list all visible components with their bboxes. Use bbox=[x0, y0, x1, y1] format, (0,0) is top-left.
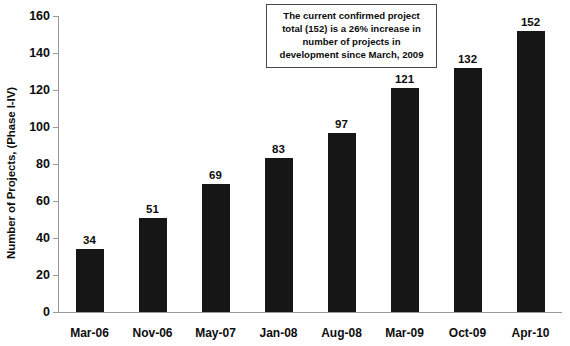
bar-value-label: 97 bbox=[335, 118, 348, 130]
bar: 51Nov-06 bbox=[139, 218, 167, 312]
y-tick-label: 0 bbox=[43, 305, 50, 319]
x-axis-label: Mar-06 bbox=[70, 326, 109, 340]
bar: 121Mar-09 bbox=[391, 88, 419, 312]
bar-value-label: 34 bbox=[83, 234, 96, 246]
y-tick-label: 140 bbox=[29, 46, 50, 60]
bar-value-label: 83 bbox=[272, 143, 285, 155]
x-axis-label: May-07 bbox=[195, 326, 236, 340]
y-tick-mark bbox=[53, 238, 58, 239]
y-tick-label: 40 bbox=[36, 231, 50, 245]
x-axis-label: Mar-09 bbox=[385, 326, 424, 340]
y-axis-title: Number of Projects, (Phase I-IV) bbox=[0, 0, 22, 346]
bar-value-label: 51 bbox=[146, 203, 159, 215]
y-tick-mark bbox=[53, 275, 58, 276]
y-tick-mark bbox=[53, 201, 58, 202]
x-axis-label: Apr-10 bbox=[511, 326, 549, 340]
y-tick-label: 20 bbox=[36, 268, 50, 282]
annotation-line: development since March, 2009 bbox=[280, 49, 424, 62]
y-tick-label: 160 bbox=[29, 9, 50, 23]
x-axis-label: Aug-08 bbox=[321, 326, 362, 340]
bar: 34Mar-06 bbox=[76, 249, 104, 312]
y-tick-label: 100 bbox=[29, 120, 50, 134]
y-tick-label: 60 bbox=[36, 194, 50, 208]
y-tick-mark bbox=[53, 127, 58, 128]
bar: 83Jan-08 bbox=[265, 158, 293, 312]
bar-value-label: 69 bbox=[209, 169, 222, 181]
bar: 69May-07 bbox=[202, 184, 230, 312]
bar: 152Apr-10 bbox=[517, 31, 545, 312]
x-axis-label: Jan-08 bbox=[259, 326, 297, 340]
bar-value-label: 121 bbox=[395, 73, 414, 85]
annotation-line: number of projects in bbox=[302, 36, 400, 49]
annotation-callout: The current confirmed project total (152… bbox=[266, 4, 437, 68]
y-tick-mark bbox=[53, 16, 58, 17]
y-tick-mark bbox=[53, 53, 58, 54]
y-tick-mark bbox=[53, 312, 58, 313]
y-tick-label: 80 bbox=[36, 157, 50, 171]
bar: 97Aug-08 bbox=[328, 133, 356, 312]
annotation-line: total (152) is a 26% increase in bbox=[282, 23, 421, 36]
bar-value-label: 132 bbox=[458, 53, 477, 65]
bar: 132Oct-09 bbox=[454, 68, 482, 312]
y-tick-label: 120 bbox=[29, 83, 50, 97]
x-axis-label: Oct-09 bbox=[449, 326, 486, 340]
y-tick-mark bbox=[53, 90, 58, 91]
bar-value-label: 152 bbox=[521, 16, 540, 28]
annotation-line: The current confirmed project bbox=[283, 10, 419, 23]
bar-chart: Number of Projects, (Phase I-IV) 0204060… bbox=[0, 0, 570, 346]
x-axis-label: Nov-06 bbox=[132, 326, 172, 340]
x-axis-line bbox=[58, 312, 562, 313]
y-tick-mark bbox=[53, 164, 58, 165]
